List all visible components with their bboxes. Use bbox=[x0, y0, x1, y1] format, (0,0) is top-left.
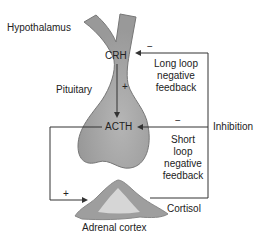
crh-label: CRH bbox=[105, 50, 127, 62]
minus-sign-short: − bbox=[175, 115, 181, 127]
adrenal-cortex-label: Adrenal cortex bbox=[82, 222, 146, 234]
minus-sign-long: − bbox=[147, 41, 153, 53]
cortisol-label: Cortisol bbox=[167, 203, 201, 215]
plus-sign-crh: + bbox=[122, 81, 128, 93]
short-loop-label: Short loop negative feedback bbox=[160, 134, 206, 182]
acth-label: ACTH bbox=[105, 121, 132, 133]
inhibition-label: Inhibition bbox=[213, 121, 253, 133]
plus-sign-adrenal: + bbox=[63, 188, 69, 200]
long-loop-label: Long loop negative feedback bbox=[146, 58, 206, 94]
hypothalamus-label: Hypothalamus bbox=[7, 22, 71, 34]
pituitary-label: Pituitary bbox=[56, 84, 92, 96]
